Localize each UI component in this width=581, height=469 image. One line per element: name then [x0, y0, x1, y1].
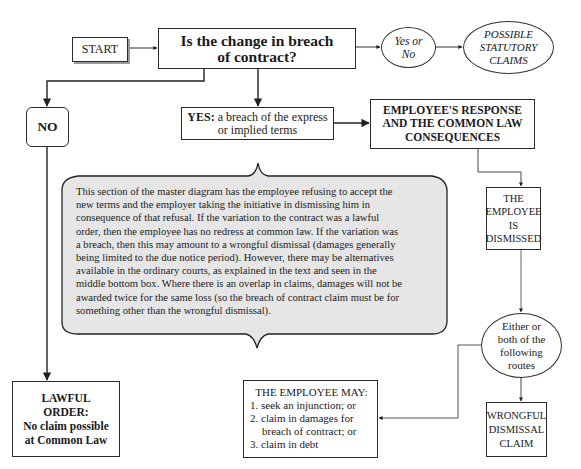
wrongful-line-3: CLAIM: [487, 437, 547, 451]
yes-or-no-node: Yes or No: [381, 27, 436, 68]
statutory-line-1: POSSIBLE: [480, 28, 538, 41]
dismissed-line-1: THE: [486, 192, 542, 206]
wrongful-line-2: DISMISSAL: [487, 423, 547, 437]
explanation-line: a breach, then this may amount to a wron…: [76, 238, 434, 251]
explanation-line: new terms and the employer taking the in…: [76, 198, 434, 211]
explanation-line: available in the ordinary courts, as exp…: [76, 264, 434, 277]
yesno-line-1: Yes or: [394, 35, 422, 48]
explanation-text: This section of the master diagram has t…: [76, 185, 434, 317]
statutory-claims-node: POSSIBLE STATUTORY CLAIMS: [463, 21, 554, 74]
employee-may-item: 1. seek an injunction; or: [250, 399, 373, 412]
employee-may-node: THE EMPLOYEE MAY: 1. seek an injunction;…: [243, 380, 378, 458]
yes-prefix: YES:: [187, 110, 214, 124]
explanation-line: something other than the wrongful dismis…: [76, 304, 434, 317]
explanation-line: middle bottom box. Where there is an ove…: [76, 277, 434, 290]
response-line-2: AND THE COMMON LAW: [382, 117, 522, 131]
lawful-line-3: No claim possible: [23, 419, 109, 433]
wrongful-line-1: WRONGFUL: [487, 409, 547, 423]
statutory-line-2: STATUTORY: [480, 41, 538, 54]
explanation-line: This section of the master diagram has t…: [76, 185, 434, 198]
dismissed-line-3: IS: [486, 219, 542, 233]
employee-may-item: 2. claim in damages for breach of contra…: [250, 412, 373, 438]
question-line-1: Is the change in breach: [180, 33, 333, 49]
employee-response-node: EMPLOYEE'S RESPONSE AND THE COMMON LAW C…: [370, 99, 535, 149]
yes-text-2: or implied terms: [187, 124, 327, 137]
lawful-line-2: ORDER:: [23, 405, 109, 419]
start-label: START: [82, 42, 118, 57]
arrow-routes-to-may: [379, 345, 481, 418]
explanation-line: being limited to the due notice period).…: [76, 251, 434, 264]
response-line-1: EMPLOYEE'S RESPONSE: [382, 104, 522, 118]
dismissed-line-4: DISMISSED: [486, 232, 542, 246]
start-node: START: [72, 37, 128, 62]
response-line-3: CONSEQUENCES: [382, 131, 522, 145]
yes-node: YES: a breach of the express or implied …: [181, 107, 334, 140]
routes-line-4: routes: [498, 359, 546, 372]
question-node: Is the change in breach of contract?: [158, 28, 356, 69]
question-line-2: of contract?: [180, 49, 333, 65]
employee-dismissed-node: THE EMPLOYEE IS DISMISSED: [486, 187, 541, 250]
statutory-line-3: CLAIMS: [480, 54, 538, 67]
lawful-line-1: LAWFUL: [23, 391, 109, 405]
employee-may-item: 3. claim in debt: [250, 438, 373, 451]
arrow-response-to-dismissed: [478, 149, 521, 186]
lawful-line-4: at Common Law: [23, 433, 109, 447]
yes-text-1: a breach of the express: [215, 110, 328, 124]
explanation-line: awarded twice for the same loss (so the …: [76, 291, 434, 304]
lawful-order-node: LAWFUL ORDER: No claim possible at Commo…: [12, 381, 120, 457]
arrow-question-to-no: [47, 69, 204, 106]
routes-node: Either or both of the following routes: [481, 313, 562, 378]
dismissed-line-2: EMPLOYEE: [486, 205, 542, 219]
routes-line-1: Either or: [498, 320, 546, 333]
explanation-line: order, then the employee has no redress …: [76, 225, 434, 238]
routes-line-3: following: [498, 346, 546, 359]
wrongful-dismissal-node: WRONGFUL DISMISSAL CLAIM: [486, 402, 547, 457]
yesno-line-2: No: [394, 48, 422, 61]
explanation-line: consequence of that refusal. If the vari…: [76, 211, 434, 224]
no-node: NO: [26, 107, 69, 147]
no-label: NO: [37, 119, 57, 135]
employee-may-title: THE EMPLOYEE MAY:: [250, 386, 373, 399]
routes-line-2: both of the: [498, 333, 546, 346]
